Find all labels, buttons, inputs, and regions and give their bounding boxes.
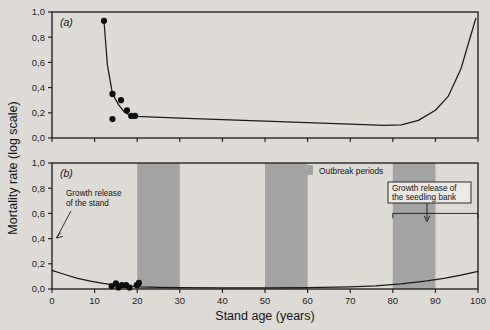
outbreak-band-20-30 [137,163,180,289]
y-tick-label-2: 0,4 [32,82,45,93]
x-tick-label-2: 20 [132,295,143,306]
data-point-2 [109,116,115,122]
y-tick-label-0: 0,0 [32,283,45,294]
y-tick-label-0: 0,0 [32,132,45,143]
figure-container: Mortality rate (log scale) 0,00,20,40,60… [0,0,490,330]
data-point-0 [101,18,107,24]
y-tick-label-4: 0,8 [32,183,45,194]
y-tick-label-1: 0,2 [32,107,45,118]
data-point-5 [126,284,132,290]
x-tick-label-9: 90 [430,295,441,306]
panel-b-label: (b) [60,167,73,179]
annotation-stand-line1: Growth release [66,189,122,198]
data-point-3 [118,97,124,103]
legend-outbreak-periods: Outbreak periods [297,165,383,176]
legend-swatch-outbreak [297,165,313,175]
annotation-stand-line2: of the stand [66,199,109,208]
y-tick-label-1: 0,2 [32,258,45,269]
x-axis-title-text: Stand age (years) [215,309,314,323]
figure-svg: Mortality rate (log scale) 0,00,20,40,60… [0,0,490,330]
legend-label-outbreak: Outbreak periods [319,166,383,176]
x-tick-label-1: 10 [89,295,100,306]
panel-a-label: (a) [60,16,73,28]
y-axis-title: Mortality rate (log scale) [6,101,20,234]
y-tick-label-4: 0,8 [32,32,45,43]
x-tick-label-5: 50 [260,295,271,306]
x-tick-label-10: 100 [470,295,486,306]
y-tick-label-5: 1,0 [32,6,45,17]
x-tick-label-0: 0 [49,295,54,306]
y-tick-label-5: 1,0 [32,157,45,168]
y-tick-label-3: 0,6 [32,208,45,219]
data-point-6 [132,113,138,119]
annotation-seedling-line1: Growth release of [392,184,457,193]
y-axis-title-text: Mortality rate (log scale) [6,101,20,234]
y-tick-label-2: 0,4 [32,233,45,244]
data-point-7 [136,280,142,286]
x-tick-label-6: 60 [302,295,313,306]
x-tick-label-3: 30 [175,295,186,306]
x-tick-label-7: 70 [345,295,356,306]
data-point-1 [109,91,115,97]
outbreak-band-50-60 [265,163,308,289]
x-tick-label-8: 80 [388,295,399,306]
y-tick-label-3: 0,6 [32,57,45,68]
x-tick-label-4: 40 [217,295,228,306]
data-point-4 [124,107,130,113]
annotation-seedling-line2: the seedling bank [392,193,457,202]
